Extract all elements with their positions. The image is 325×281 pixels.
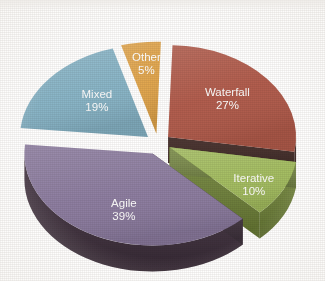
slice-label-agile: Agile39% (111, 197, 137, 222)
pie-chart-canvas: Waterfall27%Iterative10%Agile39%Mixed19%… (0, 0, 325, 281)
slice-label-value: 27% (216, 99, 239, 111)
pie-slices-group (21, 42, 296, 272)
slice-label-name: Agile (111, 197, 137, 209)
slice-label-value: 19% (85, 101, 108, 113)
slice-label-value: 5% (138, 64, 155, 76)
slice-label-value: 10% (242, 185, 265, 197)
pie-chart: Waterfall27%Iterative10%Agile39%Mixed19%… (0, 0, 325, 281)
slice-label-name: Waterfall (205, 86, 250, 98)
slice-label-name: Mixed (82, 88, 113, 100)
slice-label-name: Iterative (233, 172, 274, 184)
slice-label-value: 39% (112, 210, 135, 222)
slice-label-name: Other (132, 51, 161, 63)
slice-label-mixed: Mixed19% (82, 88, 113, 113)
